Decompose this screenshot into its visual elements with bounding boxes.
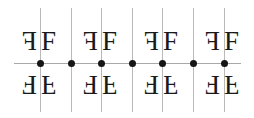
f-motif: F — [224, 28, 239, 55]
horizontal-mirror-line — [14, 63, 241, 64]
rotation-center-dot — [37, 60, 44, 67]
f-motif: F — [22, 71, 37, 98]
rotation-center-dot — [68, 60, 75, 67]
f-motif: F — [163, 71, 178, 98]
f-motif: F — [163, 28, 178, 55]
rotation-center-dot — [159, 60, 166, 67]
f-motif: F — [144, 71, 159, 98]
f-motif: F — [102, 28, 117, 55]
f-motif: F — [102, 71, 117, 98]
symmetry-diagram: FFFFFFFFFFFFFFFF — [0, 0, 254, 118]
f-motif: F — [83, 71, 98, 98]
f-motif: F — [144, 28, 159, 55]
f-motif: F — [205, 28, 220, 55]
rotation-center-dot — [190, 60, 197, 67]
rotation-center-dot — [129, 60, 136, 67]
f-motif: F — [224, 71, 239, 98]
rotation-center-dot — [221, 60, 228, 67]
f-motif: F — [83, 28, 98, 55]
f-motif: F — [22, 28, 37, 55]
rotation-center-dot — [98, 60, 105, 67]
f-motif: F — [205, 71, 220, 98]
f-motif: F — [41, 28, 56, 55]
f-motif: F — [41, 71, 56, 98]
